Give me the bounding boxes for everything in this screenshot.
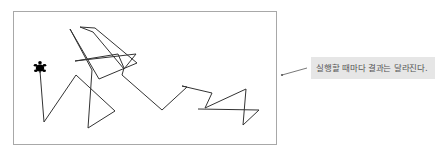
callout-text: 실행할 때마다 결과는 달라진다. [316,63,427,73]
turtle-path [40,27,259,128]
callout-anchor-dot [281,74,283,76]
callout-annotation: 실행할 때마다 결과는 달라진다. [311,57,435,79]
turtle-icon [34,61,47,73]
callout-leader-line [282,68,307,75]
